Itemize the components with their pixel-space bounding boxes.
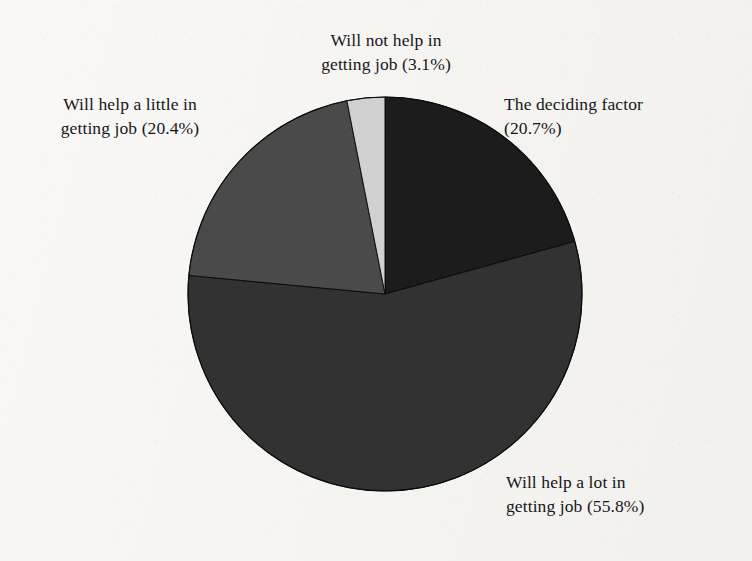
pie-chart: Perceived usefulness of qualification in… <box>0 0 752 561</box>
pie-label-will-not-help: Will not help in getting job (3.1%) <box>281 28 491 76</box>
pie-label-help-a-little: Will help a little in getting job (20.4%… <box>18 92 242 140</box>
pie-label-help-a-lot: Will help a lot in getting job (55.8%) <box>506 470 742 518</box>
pie-label-deciding-factor: The deciding factor (20.7%) <box>504 92 734 140</box>
